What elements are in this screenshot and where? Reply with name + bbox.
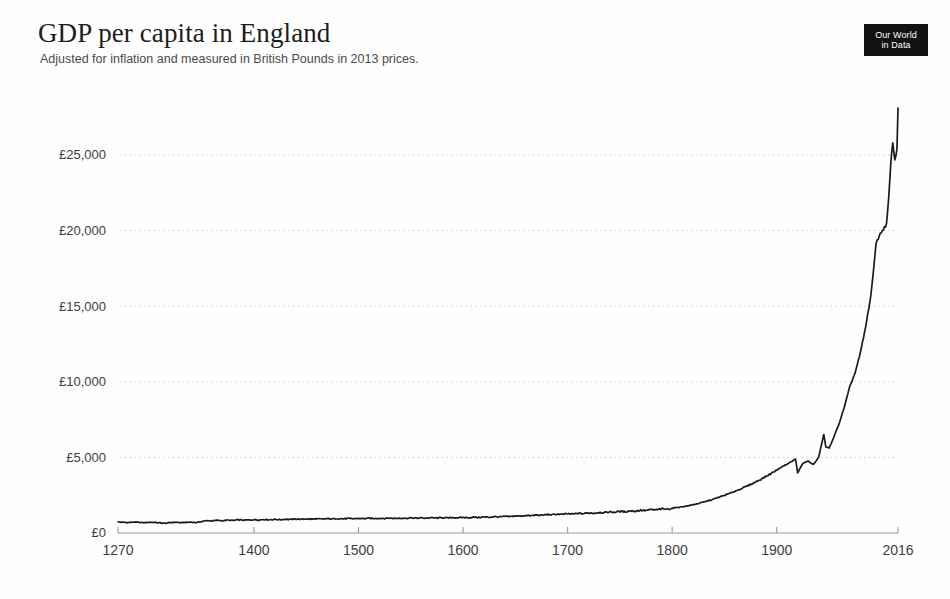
data-series xyxy=(118,108,898,523)
x-tick-label-1600: 1600 xyxy=(447,542,478,558)
y-tick-label-0: £0 xyxy=(92,525,106,540)
gridlines xyxy=(120,155,898,457)
y-axis-tick-labels: £0£5,000£10,000£15,000£20,000£25,000 xyxy=(59,147,106,540)
y-tick-label-5000: £5,000 xyxy=(66,450,106,465)
x-tick-label-1400: 1400 xyxy=(238,542,269,558)
x-tick-label-1270: 1270 xyxy=(102,542,133,558)
x-tick-label-1500: 1500 xyxy=(343,542,374,558)
y-tick-label-10000: £10,000 xyxy=(59,374,106,389)
x-tick-label-1700: 1700 xyxy=(552,542,583,558)
plot-area: £0£5,000£10,000£15,000£20,000£25,000 127… xyxy=(0,0,950,599)
y-tick-label-20000: £20,000 xyxy=(59,223,106,238)
y-tick-label-25000: £25,000 xyxy=(59,147,106,162)
line-chart: £0£5,000£10,000£15,000£20,000£25,000 127… xyxy=(0,0,950,599)
y-tick-label-15000: £15,000 xyxy=(59,299,106,314)
series-line-0 xyxy=(118,108,898,523)
axes xyxy=(118,527,898,533)
x-tick-label-2016: 2016 xyxy=(882,542,913,558)
x-tick-label-1800: 1800 xyxy=(657,542,688,558)
x-tick-label-1900: 1900 xyxy=(761,542,792,558)
x-axis-tick-labels: 12701400150016001700180019002016 xyxy=(102,542,913,558)
chart-root: GDP per capita in England Adjusted for i… xyxy=(0,0,950,599)
